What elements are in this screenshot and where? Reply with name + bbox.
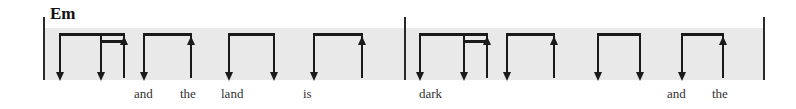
arrowhead-down-icon (594, 72, 602, 81)
beam-eighth (419, 33, 488, 36)
arrowhead-down-icon (270, 72, 278, 81)
lyric-syllable: dark (419, 87, 442, 100)
lyric-syllable: and (134, 87, 153, 100)
arrowhead-down-icon (636, 72, 644, 81)
strum-stem (273, 33, 275, 72)
strum-stem (59, 33, 61, 72)
strum-stem (597, 33, 599, 72)
barline-middle (404, 17, 406, 80)
strum-stem (313, 33, 315, 72)
arrowhead-down-icon (460, 72, 468, 81)
arrowhead-down-icon (56, 72, 64, 81)
rhythm-notation-sheet: Em andthelandisdarkandthe (0, 0, 796, 109)
barline-start (43, 17, 45, 80)
strum-stem (419, 33, 421, 72)
arrowhead-up-icon (187, 36, 195, 45)
chord-symbol: Em (50, 5, 76, 22)
beam-eighth (228, 33, 275, 36)
strum-stem (681, 33, 683, 72)
beam-eighth (313, 33, 363, 36)
strum-stem (100, 33, 102, 72)
arrowhead-down-icon (678, 72, 686, 81)
arrowhead-down-icon (225, 72, 233, 81)
arrowhead-down-icon (310, 72, 318, 81)
arrowhead-down-icon (503, 72, 511, 81)
beam-eighth (597, 33, 641, 36)
arrowhead-up-icon (550, 36, 558, 45)
lyric-syllable: is (303, 87, 312, 100)
arrowhead-up-icon (120, 36, 128, 45)
beam-eighth (143, 33, 192, 36)
arrowhead-up-icon (483, 36, 491, 45)
arrowhead-up-icon (719, 36, 727, 45)
arrowhead-down-icon (97, 72, 105, 81)
beam-eighth (681, 33, 724, 36)
lyric-syllable: the (180, 87, 196, 100)
strum-stem (143, 33, 145, 72)
lyric-syllable: and (667, 87, 686, 100)
strum-stem (639, 33, 641, 72)
barline-end (763, 17, 765, 80)
strum-stem (463, 33, 465, 72)
beam-eighth (506, 33, 555, 36)
strum-stem (506, 33, 508, 72)
lyric-syllable: land (221, 87, 243, 100)
arrowhead-up-icon (358, 36, 366, 45)
beam-eighth (59, 33, 125, 36)
lyric-syllable: the (712, 87, 728, 100)
strum-stem (228, 33, 230, 72)
arrowhead-down-icon (140, 72, 148, 81)
arrowhead-down-icon (416, 72, 424, 81)
